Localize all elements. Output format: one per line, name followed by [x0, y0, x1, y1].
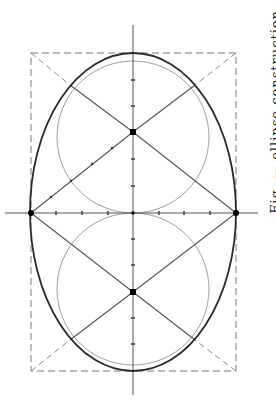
left-vertex-point [28, 210, 34, 216]
lower-focus-point [130, 289, 136, 295]
center-point [131, 211, 135, 215]
caption-fragment: Fig. — ellipse construction [268, 10, 276, 214]
ellipse-construction-diagram [0, 0, 276, 408]
cropped-caption-text: Fig. — ellipse construction [266, 0, 276, 408]
upper-focus-point [130, 129, 136, 135]
right-vertex-point [233, 210, 239, 216]
